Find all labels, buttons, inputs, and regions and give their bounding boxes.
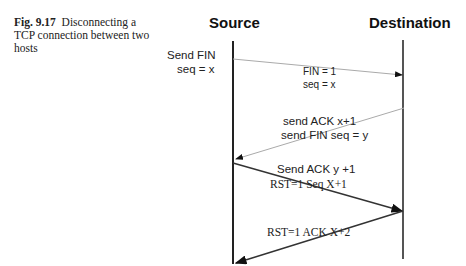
send-ack-y-label: Send ACK y +1 bbox=[277, 163, 355, 176]
rst-ack-label: RST=1 ACK X+2 bbox=[267, 226, 350, 239]
rst-seq-label: RST=1 Seq X+1 bbox=[270, 178, 347, 191]
send-fin-seq-label: seq = x bbox=[177, 63, 214, 76]
fin-seq-label: seq = x bbox=[303, 78, 336, 91]
sequence-diagram bbox=[0, 0, 466, 266]
send-ack-label: send ACK x+1 bbox=[283, 115, 356, 128]
send-fin-y-label: send FIN seq = y bbox=[281, 129, 368, 142]
send-fin-label: Send FIN bbox=[167, 49, 216, 62]
fin-flag-label: FIN = 1 bbox=[303, 65, 336, 78]
